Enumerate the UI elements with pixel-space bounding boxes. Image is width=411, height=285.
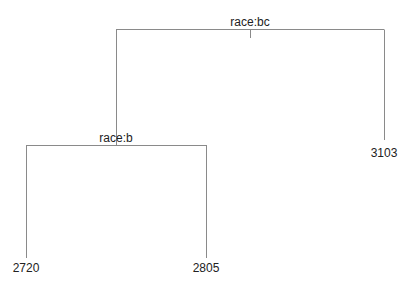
leaf-label-2720: 2720 <box>13 261 40 275</box>
root-split-label: race:bc <box>230 15 269 29</box>
leaf-label-2805: 2805 <box>193 261 220 275</box>
leaf-label-3103: 3103 <box>371 146 398 160</box>
left-split-label: race:b <box>99 131 133 145</box>
tree-diagram: race:bc 3103 race:b 2720 2805 <box>0 0 411 285</box>
